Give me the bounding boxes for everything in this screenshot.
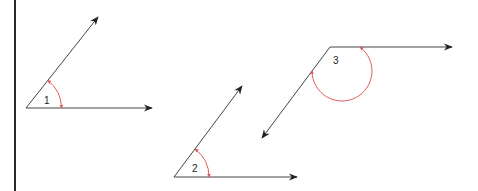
- angle-1: 1: [26, 17, 152, 108]
- angle-3: 3: [262, 47, 452, 138]
- angle-2: 2: [174, 86, 297, 177]
- angle-1-label: 1: [44, 95, 50, 106]
- angle-3-ray-lower: [262, 47, 330, 138]
- angle-3-label: 3: [333, 55, 339, 66]
- angle-2-label: 2: [192, 163, 198, 174]
- angle-diagram: 1 2 3: [0, 0, 478, 191]
- angle-3-arc: [312, 47, 372, 101]
- angle-2-ray-upper: [174, 86, 242, 177]
- angle-1-ray-upper: [26, 17, 98, 108]
- angle-1-arc: [48, 81, 62, 109]
